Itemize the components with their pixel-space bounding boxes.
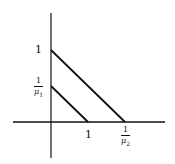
y-label-one-over-mu1: 1 μ1 xyxy=(34,77,43,98)
y-label-one: 1 xyxy=(35,44,42,55)
x-label-one: 1 xyxy=(85,129,92,140)
y-frac-numerator: 1 xyxy=(35,77,42,85)
outer-line xyxy=(51,50,125,122)
y-frac-denominator: μ1 xyxy=(34,88,43,98)
inner-line xyxy=(51,86,88,122)
x-frac-numerator: 1 xyxy=(122,126,129,134)
x-label-one-over-mu2: 1 μ2 xyxy=(121,126,130,147)
x-frac-denominator: μ2 xyxy=(121,137,130,147)
